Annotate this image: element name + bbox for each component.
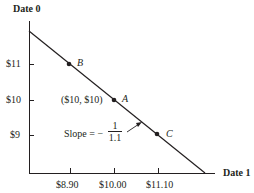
y-tick-label-11: $11: [6, 58, 21, 70]
slope-label: Slope = −: [64, 128, 103, 140]
x-axis-label: Date 1: [223, 167, 251, 179]
slope-denominator: 1.1: [109, 132, 122, 143]
x-tick-label-890: $8.90: [56, 179, 79, 191]
point-b: [67, 62, 72, 67]
slope-fraction: 1 1.1: [108, 120, 122, 143]
point-c-label: C: [166, 128, 173, 140]
budget-line: [29, 31, 205, 173]
point-a-coords: ($10, $10): [61, 94, 103, 106]
y-axis-label: Date 0: [13, 3, 41, 15]
point-a-label: A: [122, 93, 128, 105]
point-b-label: B: [77, 57, 83, 69]
x-tick-label-1110: $11.10: [146, 179, 173, 191]
slope-numerator: 1: [108, 120, 122, 132]
x-tick-label-1000: $10.00: [99, 179, 127, 191]
arrow-head-icon: [136, 122, 142, 127]
y-tick-label-9: $9: [10, 129, 20, 141]
point-a: [112, 98, 117, 103]
y-tick-label-10: $10: [6, 94, 21, 106]
point-c: [155, 132, 160, 137]
